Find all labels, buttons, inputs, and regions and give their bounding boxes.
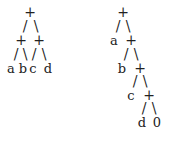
leaf-node: 0: [153, 116, 161, 129]
left-edge: /: [32, 48, 37, 61]
leaf-node: c: [127, 89, 134, 102]
leaf-node: c: [29, 62, 36, 75]
left-edge: /: [133, 75, 138, 88]
right-edge: \: [42, 48, 47, 61]
left-edge: /: [14, 48, 19, 61]
leaf-node: d: [138, 116, 146, 129]
left-edge: /: [142, 102, 147, 115]
leaf-node: a: [110, 34, 118, 47]
leaf-node: a: [7, 62, 15, 75]
left-edge: /: [116, 20, 121, 33]
leaf-node: d: [44, 62, 52, 75]
right-edge: \: [23, 48, 28, 61]
leaf-node: b: [118, 62, 126, 75]
right-edge: \: [152, 102, 157, 115]
left-edge: /: [124, 48, 129, 61]
leaf-node: b: [19, 62, 27, 75]
